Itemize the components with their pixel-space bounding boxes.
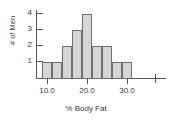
- x-tick-label-30: 30.0: [113, 87, 141, 95]
- x-tick-mark-40: [155, 74, 156, 83]
- y-tick-label-2: 2: [18, 41, 32, 49]
- bar-bin-6: [92, 46, 102, 79]
- histogram-chart: # of Men 4 3 2 1 10.0 20.0 30.0: [0, 0, 172, 125]
- plot-area: # of Men 4 3 2 1 10.0 20.0 30.0: [0, 0, 172, 125]
- y-tick-label-4: 4: [18, 9, 32, 17]
- bar-bin-8: [112, 62, 122, 79]
- y-tick-mark-4: [36, 13, 43, 14]
- y-tick-mark-3: [36, 29, 43, 30]
- y-axis-line: [36, 10, 37, 78]
- bar-bin-3: [62, 46, 72, 79]
- bar-bin-5: [82, 14, 92, 79]
- y-axis-title: # of Men: [8, 3, 17, 59]
- bar-bin-1: [42, 62, 52, 79]
- x-tick-label-10: 10.0: [33, 87, 61, 95]
- x-axis-title: % Body Fat: [0, 104, 172, 113]
- bar-bin-2: [52, 62, 62, 79]
- bar-bin-7: [102, 46, 112, 79]
- x-tick-mark-20: [87, 78, 88, 84]
- y-tick-label-3: 3: [18, 25, 32, 33]
- y-tick-mark-2: [36, 45, 43, 46]
- y-tick-label-1: 1: [18, 57, 32, 65]
- x-tick-mark-10: [47, 78, 48, 84]
- x-tick-mark-30: [127, 78, 128, 84]
- bar-bin-4: [72, 30, 82, 79]
- bar-bin-9: [122, 62, 132, 79]
- x-tick-label-20: 20.0: [73, 87, 101, 95]
